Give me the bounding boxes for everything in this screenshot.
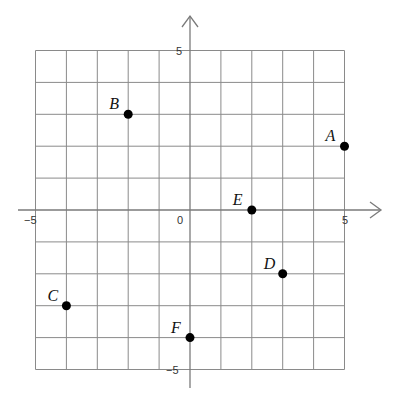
point-d: D xyxy=(263,255,288,279)
origin-label: 0 xyxy=(177,214,183,226)
point-label: A xyxy=(325,127,336,144)
data-points: ABCDEF xyxy=(47,95,349,342)
point-label: F xyxy=(170,319,181,336)
point-label: E xyxy=(232,191,243,208)
point-e: E xyxy=(232,191,256,215)
point-marker xyxy=(278,269,287,278)
y-max-label: 5 xyxy=(176,45,182,57)
point-a: A xyxy=(325,127,350,151)
point-marker xyxy=(247,206,256,215)
coordinate-plane: −5 5 5 −5 0 ABCDEF xyxy=(0,0,394,394)
point-marker xyxy=(124,110,133,119)
point-label: C xyxy=(47,287,58,304)
point-marker xyxy=(186,333,195,342)
point-marker xyxy=(340,142,349,151)
point-b: B xyxy=(109,95,133,119)
x-max-label: 5 xyxy=(342,214,348,226)
point-marker xyxy=(62,301,71,310)
x-min-label: −5 xyxy=(24,214,37,226)
axes xyxy=(18,16,381,388)
point-c: C xyxy=(47,287,71,311)
point-f: F xyxy=(170,319,195,343)
y-min-label: −5 xyxy=(166,364,179,376)
point-label: B xyxy=(109,95,119,112)
point-label: D xyxy=(263,255,276,272)
